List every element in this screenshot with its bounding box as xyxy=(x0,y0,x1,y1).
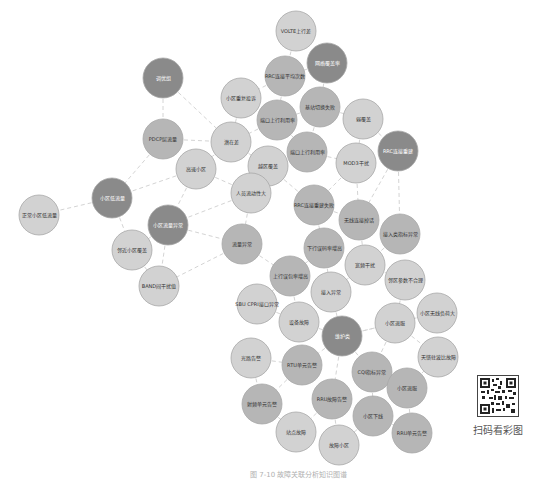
graph-node[interactable]: 维护类 xyxy=(322,316,362,356)
graph-node[interactable]: RRC连接平均次数 xyxy=(265,56,305,96)
node-label: 上行误包率增高 xyxy=(273,273,308,280)
graph-node[interactable]: 人员流动性大 xyxy=(231,173,271,213)
node-label: 小区退服 xyxy=(385,320,405,327)
knowledge-graph: VOLTE上行差网络覆盖率RRC连接平均次数调优组小区重复投诉基站切换失败端口上… xyxy=(0,0,534,480)
graph-node[interactable]: 小区重复投诉 xyxy=(221,78,261,118)
node-label: 端口上行利用率 xyxy=(290,149,325,156)
node-label: SBU CPRI接口异常 xyxy=(235,301,278,308)
node-label: 接入类指标异常 xyxy=(383,231,418,238)
node-label: 小区流量异常 xyxy=(153,222,183,229)
node-label: BAND间干扰值 xyxy=(142,283,176,290)
graph-node[interactable]: 接入类指标异常 xyxy=(380,214,420,254)
node-label: RRC连接重建失败 xyxy=(294,202,334,209)
node-label: 越区覆盖 xyxy=(258,163,278,170)
node-label: VOLTE上行差 xyxy=(281,28,312,35)
graph-node[interactable]: 接入异常 xyxy=(311,272,351,312)
node-label: 小区低流量 xyxy=(100,195,125,202)
node-label: 下行误码率增高 xyxy=(307,245,342,252)
figure-caption: 图 7-10 故障关联分析知识图谱 xyxy=(250,469,347,479)
node-label: 设备故障 xyxy=(289,319,309,326)
node-label: 接入异常 xyxy=(321,289,341,296)
graph-node[interactable]: 小区下线 xyxy=(353,396,393,436)
node-label: 流量异常 xyxy=(232,241,252,248)
node-label: 人员流动性大 xyxy=(236,190,266,197)
qr-pattern-icon xyxy=(480,378,516,414)
qr-code-icon xyxy=(477,375,519,417)
graph-node[interactable]: 调优组 xyxy=(143,58,183,98)
graph-node[interactable]: RRU单元告警 xyxy=(392,413,432,453)
graph-node[interactable]: 射频单元告警 xyxy=(242,384,282,424)
graph-node[interactable]: 网络覆盖率 xyxy=(307,43,347,83)
node-label: 小区下线 xyxy=(363,413,383,420)
graph-node[interactable]: 高速小区 xyxy=(176,149,216,189)
node-label: 小区退服 xyxy=(397,385,417,392)
qr-block: 扫码看彩图 xyxy=(470,375,526,437)
node-label: 小区重复投诉 xyxy=(226,95,256,102)
graph-node[interactable]: 端口上行利用率 xyxy=(257,100,297,140)
graph-node[interactable]: 站点故障 xyxy=(276,412,316,452)
graph-node[interactable]: RTU单元告警 xyxy=(282,345,322,385)
node-label: 弱覆盖 xyxy=(356,116,371,123)
graph-node[interactable]: MOD3干扰 xyxy=(336,143,376,183)
graph-node[interactable]: BAND间干扰值 xyxy=(139,266,179,306)
node-label: 潜在差 xyxy=(224,139,239,146)
node-label: 正常小区低流量 xyxy=(22,212,57,219)
node-label: 邻近小区覆盖 xyxy=(117,247,147,254)
graph-node[interactable]: 上行误包率增高 xyxy=(270,256,310,296)
graph-node[interactable]: PDCP层流量 xyxy=(143,119,183,159)
node-label: 无线连接掉话 xyxy=(344,217,374,224)
graph-node[interactable]: CQI指标异常 xyxy=(352,352,392,392)
graph-node[interactable]: 正常小区低流量 xyxy=(19,195,59,235)
graph-node[interactable]: 小区无线负荷大 xyxy=(417,293,457,333)
graph-node[interactable]: 弱覆盖 xyxy=(343,99,383,139)
graph-node[interactable]: 小区低流量 xyxy=(92,178,132,218)
node-label: RRC连接平均次数 xyxy=(265,73,305,80)
qr-label: 扫码看彩图 xyxy=(470,422,526,437)
graph-node[interactable]: 下行误码率增高 xyxy=(304,228,344,268)
node-label: 维护类 xyxy=(335,333,350,340)
node-label: 站点故障 xyxy=(286,429,306,436)
node-label: 故障小区 xyxy=(329,442,349,449)
node-label: 高速小区 xyxy=(186,166,206,173)
node-label: 宽频干扰 xyxy=(355,262,375,269)
graph-node[interactable]: VOLTE上行差 xyxy=(276,11,316,51)
graph-node[interactable]: 邻近小区覆盖 xyxy=(112,230,152,270)
graph-node[interactable]: 小区退服 xyxy=(387,368,427,408)
node-label: 端口上行利用率 xyxy=(260,117,295,124)
graph-node[interactable]: 光路告警 xyxy=(231,338,271,378)
graph-node[interactable]: 设备故障 xyxy=(279,302,319,342)
graph-node[interactable]: 流量异常 xyxy=(222,224,262,264)
node-label: CQI指标异常 xyxy=(358,369,387,376)
node-label: RTU单元告警 xyxy=(287,362,317,369)
node-label: 光路告警 xyxy=(241,355,261,362)
graph-node[interactable]: RRC连接重建 xyxy=(378,131,418,171)
graph-node[interactable]: RRC连接重建失败 xyxy=(294,185,334,225)
node-label: 调优组 xyxy=(156,75,171,82)
node-label: PDCP层流量 xyxy=(149,136,177,143)
nodes-layer: VOLTE上行差网络覆盖率RRC连接平均次数调优组小区重复投诉基站切换失败端口上… xyxy=(19,11,458,465)
graph-node[interactable]: RRU故障告警 xyxy=(312,379,352,419)
graph-node[interactable]: 端口上行利用率 xyxy=(287,132,327,172)
graph-node[interactable]: 小区流量异常 xyxy=(148,205,188,245)
graph-node[interactable]: 故障小区 xyxy=(319,425,359,465)
node-label: 网络覆盖率 xyxy=(315,60,340,67)
node-label: RRU单元告警 xyxy=(397,430,428,437)
graph-node[interactable]: SBU CPRI接口异常 xyxy=(235,284,278,324)
node-label: 天馈驻波比故障 xyxy=(421,354,456,361)
node-label: 射频单元告警 xyxy=(247,401,277,408)
graph-node[interactable]: 小区退服 xyxy=(375,303,415,343)
node-label: 小区无线负荷大 xyxy=(420,310,455,317)
node-label: 基站切换失败 xyxy=(305,104,335,111)
graph-node[interactable]: 基站切换失败 xyxy=(300,87,340,127)
graph-node[interactable]: 天馈驻波比故障 xyxy=(418,337,458,377)
node-label: RRU故障告警 xyxy=(317,396,348,403)
graph-node[interactable]: 宽频干扰 xyxy=(345,245,385,285)
graph-node[interactable]: 潜在差 xyxy=(211,122,251,162)
graph-node[interactable]: 邻区参数不合理 xyxy=(385,260,425,300)
graph-node[interactable]: 无线连接掉话 xyxy=(339,200,379,240)
node-label: MOD3干扰 xyxy=(343,160,368,167)
node-label: 邻区参数不合理 xyxy=(388,277,423,284)
node-label: RRC连接重建 xyxy=(383,148,413,155)
